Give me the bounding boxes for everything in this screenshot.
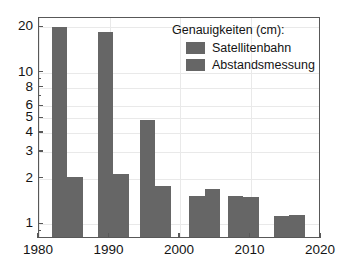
bar-abstandsmessung-1990 xyxy=(113,174,129,238)
y-tick-label-2: 2 xyxy=(3,171,33,184)
legend-entry-satellitenbahn: Satellitenbahn xyxy=(186,40,315,56)
y-minor-tick-0.9 xyxy=(38,230,41,231)
bar-abstandsmessung-1996 xyxy=(155,186,171,238)
bar-satellitenbahn-1990 xyxy=(98,32,114,238)
y-tick-mark-4 xyxy=(38,131,43,132)
y-tick-label-3: 3 xyxy=(3,144,33,157)
y-tick-label-5: 5 xyxy=(3,110,33,123)
chart-legend: Genauigkeiten (cm): Satellitenbahn Absta… xyxy=(172,22,315,73)
y-minor-tick-7 xyxy=(38,95,41,96)
bar-satellitenbahn-2003 xyxy=(189,196,205,239)
bar-satellitenbahn-1996 xyxy=(140,120,156,238)
y-tick-label-20: 20 xyxy=(3,19,33,32)
x-tick-label-1990: 1990 xyxy=(79,243,139,257)
y-tick-mark-8 xyxy=(38,86,43,87)
x-tick-mark-2020 xyxy=(319,233,320,238)
y-tick-mark-1 xyxy=(38,223,43,224)
y-minor-tick-9 xyxy=(38,78,41,79)
bar-satellitenbahn-2015 xyxy=(274,216,290,238)
y-tick-label-10: 10 xyxy=(3,65,33,78)
gridline-x-1980 xyxy=(39,18,40,237)
y-tick-mark-5 xyxy=(38,117,43,118)
y-tick-mark-2 xyxy=(38,177,43,178)
gridline-y-3 xyxy=(39,152,319,153)
x-tick-mark-1990 xyxy=(108,233,109,238)
bar-satellitenbahn-1984 xyxy=(52,27,68,238)
bar-satellitenbahn-2009 xyxy=(228,196,244,239)
y-tick-label-4: 4 xyxy=(3,125,33,138)
legend-swatch-abstandsmessung xyxy=(186,59,205,71)
legend-entry-abstandsmessung: Abstandsmessung xyxy=(186,57,315,73)
legend-label-satellitenbahn: Satellitenbahn xyxy=(212,40,291,56)
bar-abstandsmessung-2015 xyxy=(289,215,305,238)
gridline-y-6 xyxy=(39,106,319,107)
gridline-y-4 xyxy=(39,133,319,134)
bar-abstandsmessung-2003 xyxy=(205,189,221,238)
y-tick-label-8: 8 xyxy=(3,80,33,93)
bar-abstandsmessung-2009 xyxy=(243,197,259,238)
y-tick-mark-6 xyxy=(38,105,43,106)
legend-swatch-satellitenbahn xyxy=(186,42,205,54)
y-tick-label-6: 6 xyxy=(3,98,33,111)
bar-abstandsmessung-1984 xyxy=(67,177,83,238)
gridline-y-8 xyxy=(39,88,319,89)
x-tick-mark-2010 xyxy=(249,233,250,238)
x-tick-label-2020: 2020 xyxy=(290,243,340,257)
legend-title: Genauigkeiten (cm): xyxy=(172,22,315,38)
y-tick-mark-3 xyxy=(38,150,43,151)
y-tick-mark-20 xyxy=(38,26,43,27)
y-tick-mark-10 xyxy=(38,71,43,72)
x-tick-label-2010: 2010 xyxy=(220,243,280,257)
legend-label-abstandsmessung: Abstandsmessung xyxy=(212,57,315,73)
gridline-y-5 xyxy=(39,118,319,119)
x-tick-mark-2000 xyxy=(178,233,179,238)
x-tick-label-1980: 1980 xyxy=(8,243,68,257)
x-tick-mark-1980 xyxy=(37,233,38,238)
x-tick-label-2000: 2000 xyxy=(149,243,209,257)
y-tick-label-1: 1 xyxy=(3,216,33,229)
